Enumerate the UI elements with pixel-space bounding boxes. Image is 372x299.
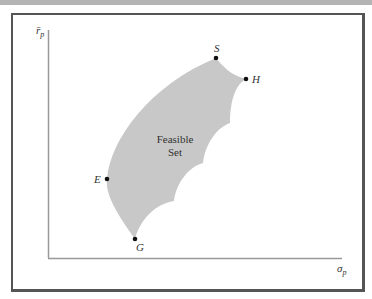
point-S <box>214 56 219 61</box>
point-G-label: G <box>136 241 144 253</box>
feasible-set-diagram: Feasible Set S H E G r̄p σp <box>0 0 372 299</box>
point-H-label: H <box>251 73 261 85</box>
point-E <box>105 177 110 182</box>
region-label-line2: Set <box>168 146 182 158</box>
region-label-line1: Feasible <box>157 133 194 145</box>
x-axis-label: σp <box>337 262 346 277</box>
point-S-label: S <box>214 42 220 54</box>
point-E-label: E <box>93 173 101 185</box>
point-H <box>244 77 249 82</box>
y-axis-label: r̄p <box>36 24 44 39</box>
